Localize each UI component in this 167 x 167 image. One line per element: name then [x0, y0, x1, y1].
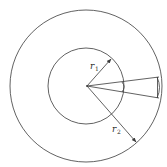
inner-circle — [48, 48, 124, 124]
r1-subscript: 1 — [95, 65, 99, 72]
concentric-circles-diagram: r 1 r 2 — [0, 0, 167, 167]
r2-subscript: 2 — [117, 128, 121, 135]
outer-circle — [10, 10, 162, 162]
diagram-canvas: r 1 r 2 — [0, 0, 167, 167]
